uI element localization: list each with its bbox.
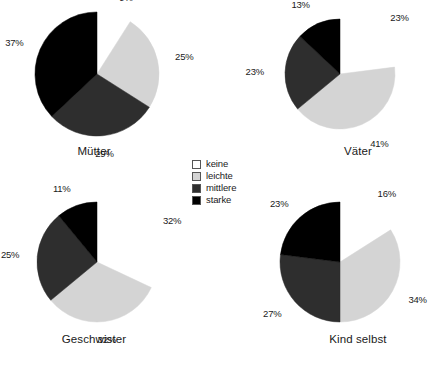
legend-item-keine: keine [192, 158, 272, 170]
legend-label-starke: starke [206, 194, 231, 206]
legend-swatch-leichte [192, 172, 201, 181]
legend-label-leichte: leichte [206, 170, 233, 182]
panel-title-geschwister: Geschwister [0, 333, 194, 345]
slice-label-starke: 37% [5, 37, 24, 48]
pie-svg-kind-selbst: 16%34%27%23% [245, 190, 435, 374]
legend-swatch-starke [192, 196, 201, 205]
slice-label-starke: 13% [291, 0, 310, 10]
slice-label-mittlere: 23% [246, 66, 265, 77]
chart-legend: keine leichte mittlere starke [192, 158, 272, 206]
pie-panel-kind-selbst: 16%34%27%23% Kind selbst [245, 190, 435, 374]
pie-slice-leichte [340, 230, 400, 322]
legend-item-leichte: leichte [192, 170, 272, 182]
pie-svg-vaeter: 23%41%23%13% [245, 2, 435, 187]
legend-item-starke: starke [192, 194, 272, 206]
slice-label-mittlere: 27% [263, 308, 282, 319]
pie-svg-muetter: 9%25%29%37% [2, 2, 202, 187]
pie-svg-geschwister: 32%32%25%11% [2, 190, 202, 374]
slice-label-leichte: 34% [408, 294, 427, 305]
slice-label-keine: 32% [163, 215, 182, 226]
pie-chart-figure: 9%25%29%37% Mütter 23%41%23%13% Väter 32… [0, 0, 435, 374]
legend-label-keine: keine [206, 158, 228, 170]
slice-label-leichte: 25% [175, 51, 194, 62]
panel-title-muetter: Mütter [0, 145, 194, 157]
pie-slice-mittlere [280, 254, 340, 322]
slice-label-starke: 11% [53, 183, 71, 194]
pie-panel-geschwister: 32%32%25%11% Geschwister [2, 190, 202, 374]
legend-swatch-keine [192, 160, 201, 169]
panel-title-kind-selbst: Kind selbst [258, 333, 435, 345]
slice-label-keine: 16% [378, 188, 397, 199]
legend-item-mittlere: mittlere [192, 182, 272, 194]
pie-slice-starke [280, 202, 340, 262]
slice-label-keine: 9% [119, 0, 133, 3]
slice-label-mittlere: 25% [1, 249, 20, 260]
pie-panel-muetter: 9%25%29%37% Mütter [2, 2, 202, 187]
slice-label-keine: 23% [390, 12, 409, 23]
slice-label-starke: 23% [270, 198, 289, 209]
legend-swatch-mittlere [192, 184, 201, 193]
legend-label-mittlere: mittlere [206, 182, 236, 194]
pie-panel-vaeter: 23%41%23%13% Väter [245, 2, 435, 187]
panel-title-vaeter: Väter [258, 145, 435, 157]
